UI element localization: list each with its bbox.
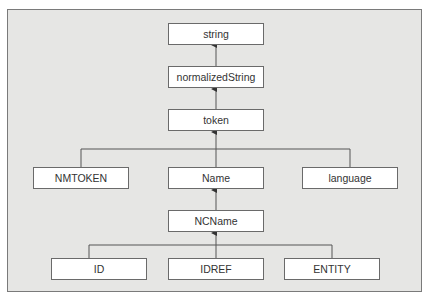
diagram-frame (7, 9, 422, 292)
node-label: string (203, 28, 229, 40)
node-label: token (203, 114, 229, 126)
node-language: language (302, 167, 398, 189)
node-string: string (168, 23, 264, 45)
node-label: normalizedString (177, 71, 256, 83)
node-label: NCName (194, 215, 237, 227)
node-normalizedstring: normalizedString (168, 66, 264, 88)
node-label: ENTITY (313, 263, 350, 275)
node-nmtoken: NMTOKEN (33, 167, 129, 189)
node-label: IDREF (200, 263, 232, 275)
node-label: NMTOKEN (55, 172, 107, 184)
node-idref: IDREF (168, 258, 264, 280)
node-entity: ENTITY (284, 258, 380, 280)
node-label: language (328, 172, 371, 184)
node-label: Name (202, 172, 230, 184)
node-label: ID (94, 263, 105, 275)
node-token: token (168, 109, 264, 131)
node-id: ID (51, 258, 147, 280)
node-name: Name (168, 167, 264, 189)
node-ncname: NCName (168, 210, 264, 232)
